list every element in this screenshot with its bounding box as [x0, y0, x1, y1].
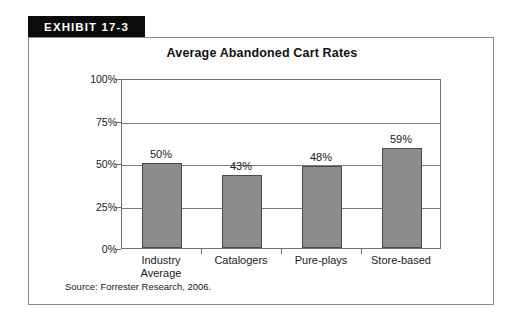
x-axis-category-line: Catalogers: [196, 254, 286, 267]
exhibit-frame: Average Abandoned Cart Rates 0%25%50%75%…: [28, 37, 494, 305]
x-axis-category-label: Pure-plays: [276, 254, 366, 267]
y-axis-tick-mark: [115, 79, 121, 80]
x-axis-category-line: Average: [116, 267, 206, 280]
y-axis-tick-mark: [115, 164, 121, 165]
y-axis-tick-label: 50%: [71, 158, 117, 170]
x-axis-category-line: Pure-plays: [276, 254, 366, 267]
exhibit-banner-label: EXHIBIT 17-3: [44, 21, 129, 33]
x-axis-category-line: Industry: [116, 254, 206, 267]
bar-value-label: 48%: [291, 151, 351, 163]
bar: [222, 175, 262, 248]
y-axis-tick-labels: 0%25%50%75%100%: [67, 79, 117, 249]
bar: [382, 148, 422, 248]
y-axis-tick-mark: [115, 249, 121, 250]
bar-value-label: 50%: [131, 148, 191, 160]
x-axis-category-label: IndustryAverage: [116, 254, 206, 279]
y-axis-tick-mark: [115, 122, 121, 123]
x-axis-category-line: Store-based: [356, 254, 446, 267]
bar-value-label: 43%: [211, 160, 271, 172]
bar-value-label: 59%: [371, 133, 431, 145]
exhibit-banner: EXHIBIT 17-3: [28, 16, 145, 37]
x-axis-category-label: Store-based: [356, 254, 446, 267]
y-axis-tick-label: 0%: [71, 243, 117, 255]
y-axis-tick-label: 100%: [71, 73, 117, 85]
bar: [302, 166, 342, 248]
source-note: Source: Forrester Research, 2006.: [65, 281, 211, 292]
bar: [142, 163, 182, 248]
x-axis-category-label: Catalogers: [196, 254, 286, 267]
y-axis-tick-label: 75%: [71, 116, 117, 128]
y-axis-tick-mark: [115, 207, 121, 208]
gridline: [122, 123, 440, 124]
y-axis-tick-label: 25%: [71, 201, 117, 213]
chart-title: Average Abandoned Cart Rates: [29, 46, 495, 60]
plot-area: [121, 79, 441, 249]
bar-chart: Average Abandoned Cart Rates 0%25%50%75%…: [29, 38, 495, 306]
